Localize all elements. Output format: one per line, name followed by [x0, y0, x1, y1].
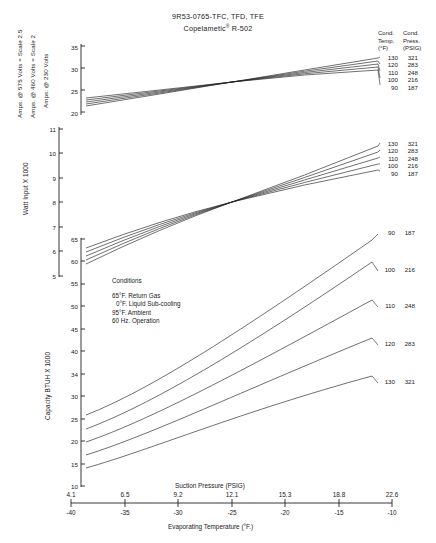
amps-curves	[86, 57, 380, 106]
chart-plot-area	[0, 0, 436, 543]
x-axis	[71, 499, 392, 507]
spec-sheet: 9R53-0765-TFC, TFD, TFE Copelametic® R-5…	[0, 0, 436, 543]
amps-axis	[81, 44, 85, 115]
watt-axis	[59, 127, 63, 277]
capacity-axis	[81, 238, 85, 487]
capacity-curves	[86, 234, 378, 468]
watt-curves	[86, 143, 380, 264]
